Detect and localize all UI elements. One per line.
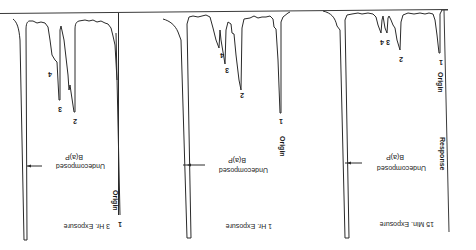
undecomposed-label-line2: B(a)P (386, 153, 404, 161)
undecomposed-label-line1: Undecomposed (377, 164, 426, 172)
origin-label: Origin (278, 136, 286, 157)
origin-label: Origin (111, 190, 119, 211)
panel-title-3hr: 3 Hr. Exposure (64, 222, 110, 230)
arrowhead-icon (27, 165, 31, 168)
panel-15min-exposure: 4 3 2 1 Origin Response Undecomposed B(a… (323, 10, 449, 238)
peak-label-2: 2 (73, 118, 77, 125)
chromatogram-figure: 4 3 2 Undecomposed B(a)P Origin 3 Hr. Ex… (0, 0, 476, 250)
arrowhead-icon (187, 164, 191, 167)
peak-label-1: 1 (118, 221, 122, 228)
response-axis-label: Response (438, 137, 446, 171)
peak-label-4: 4 (380, 39, 384, 46)
trace-1hr (163, 12, 290, 238)
trace-3hr (13, 19, 117, 240)
undecomposed-label-line2: B(a)P (228, 156, 246, 164)
panel-3hr-exposure: 4 3 2 Undecomposed B(a)P Origin 3 Hr. Ex… (13, 13, 122, 240)
panel-title-1hr: 1 Hr. Exposure (226, 222, 272, 230)
panel-title-15min: 15 Min. Exposure (379, 220, 434, 228)
peak-label-3: 3 (386, 39, 390, 46)
undecomposed-label-line1: Undecomposed (56, 162, 105, 170)
peak-label-3: 3 (58, 106, 62, 113)
peak-label-4: 4 (220, 52, 224, 59)
top-axis-line (0, 10, 448, 14)
peak-label-1: 1 (439, 59, 443, 66)
peak-label-3: 3 (225, 67, 229, 74)
panel-1hr-exposure: 4 3 2 1 Origin Undecomposed B(a)P 1 Hr. … (163, 12, 290, 238)
peak-label-4: 4 (48, 71, 52, 78)
origin-label: Origin (436, 72, 444, 93)
undecomposed-label-line1: Undecomposed (219, 166, 268, 174)
right-frame-line (444, 10, 449, 232)
peak-label-2: 2 (399, 56, 403, 63)
peak-label-2: 2 (240, 92, 244, 99)
undecomposed-label-line2: B(a)P (65, 153, 83, 161)
peak-label-1: 1 (279, 118, 283, 125)
